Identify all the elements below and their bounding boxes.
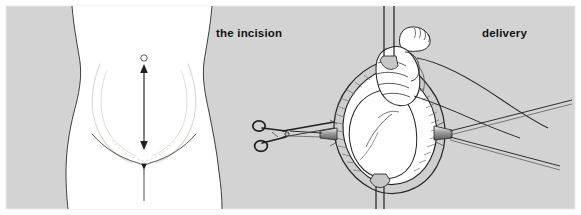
panel-label-incision: the incision [216, 27, 282, 39]
medical-figure: the incision delivery [0, 0, 581, 215]
illustration-canvas: the incision delivery [0, 0, 581, 215]
forceps-joint [285, 132, 289, 136]
panel-label-delivery: delivery [482, 27, 527, 39]
umbilicus-icon [141, 55, 147, 61]
